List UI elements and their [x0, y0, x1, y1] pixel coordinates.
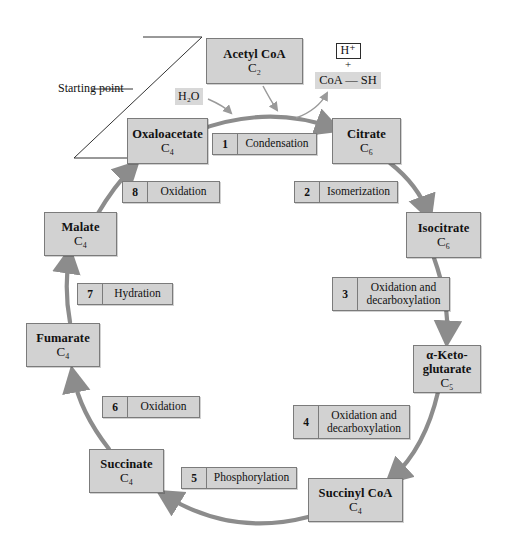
step-4-oxidation-decarboxylation[interactable]: 4 Oxidation and decarboxylation — [293, 405, 410, 439]
molecule-name: Oxaloacetate — [132, 127, 203, 141]
proton-label: H⁺ — [336, 43, 361, 59]
molecule-name: Isocitrate — [418, 221, 470, 235]
citric-acid-cycle-diagram: Starting point H₂O H⁺ + CoA — SH Acetyl … — [0, 0, 513, 551]
molecule-name: Malate — [61, 220, 99, 234]
molecule-fumarate[interactable]: Fumarate C₄ — [26, 323, 100, 367]
step-number: 3 — [333, 278, 358, 310]
molecule-name: Fumarate — [36, 331, 90, 345]
molecule-succinate[interactable]: Succinate C₄ — [89, 449, 164, 493]
arrow-oxaloacetate-to-citrate — [196, 117, 333, 131]
molecule-carbons: C₆ — [360, 141, 373, 156]
water-label: H₂O — [175, 88, 203, 105]
step-1-condensation[interactable]: 1 Condensation — [212, 133, 317, 155]
molecule-name: Succinate — [100, 457, 152, 471]
step-label: Oxidation — [148, 182, 219, 202]
molecule-carbons: C₂ — [248, 61, 261, 76]
molecule-oxaloacetate[interactable]: Oxaloacetate C₄ — [127, 118, 208, 164]
molecule-acetyl-coa[interactable]: Acetyl CoA C₂ — [206, 38, 303, 84]
step-label: Oxidation — [128, 397, 199, 417]
step-number: 7 — [78, 284, 103, 304]
step-number: 4 — [294, 406, 319, 438]
arrow-succinylcoa-to-succinate — [164, 495, 308, 523]
molecule-carbons: C₄ — [349, 500, 362, 515]
coash-label: CoA — SH — [315, 72, 381, 89]
step-8-oxidation[interactable]: 8 Oxidation — [122, 181, 220, 203]
molecule-name-line2: glutarate — [423, 362, 472, 376]
plus-symbol: + — [300, 59, 396, 70]
step-3-oxidation-decarboxylation[interactable]: 3 Oxidation and decarboxylation — [332, 277, 450, 311]
step-2-isomerization[interactable]: 2 Isomerization — [294, 181, 398, 203]
molecule-name: Citrate — [347, 127, 386, 141]
products-group: H⁺ + CoA — SH — [300, 40, 396, 89]
molecule-citrate[interactable]: Citrate C₆ — [332, 118, 401, 164]
step-label: Isomerization — [320, 182, 397, 202]
step-number: 5 — [182, 468, 207, 488]
molecule-isocitrate[interactable]: Isocitrate C₆ — [406, 212, 481, 258]
arrow-coash-out — [296, 93, 327, 118]
molecule-carbons: C₄ — [120, 471, 133, 486]
step-number: 8 — [123, 182, 148, 202]
molecule-succinyl-coa[interactable]: Succinyl CoA C₄ — [308, 478, 403, 522]
molecule-alpha-ketoglutarate[interactable]: α-Keto- glutarate C₅ — [413, 345, 481, 393]
step-number: 1 — [213, 134, 238, 154]
arrow-fumarate-to-malate — [67, 256, 70, 322]
molecule-carbons: C₄ — [74, 234, 87, 249]
molecule-carbons: C₆ — [437, 235, 450, 250]
step-label: Condensation — [238, 134, 316, 154]
step-5-phosphorylation[interactable]: 5 Phosphorylation — [181, 467, 297, 489]
molecule-carbons: C₄ — [161, 141, 174, 156]
step-7-hydration[interactable]: 7 Hydration — [77, 283, 173, 305]
molecule-name: Succinyl CoA — [319, 486, 393, 500]
step-label: Phosphorylation — [207, 468, 296, 488]
molecule-name: Acetyl CoA — [223, 47, 285, 61]
molecule-name: α-Keto- — [426, 348, 468, 362]
step-label: Oxidation and decarboxylation — [358, 278, 449, 310]
step-label: Hydration — [103, 284, 172, 304]
step-label: Oxidation and decarboxylation — [319, 406, 409, 438]
arrow-water-in — [208, 99, 231, 113]
arrow-acetylcoa-in — [263, 86, 277, 110]
step-6-oxidation[interactable]: 6 Oxidation — [102, 396, 200, 418]
step-number: 2 — [295, 182, 320, 202]
molecule-carbons: C₄ — [56, 345, 69, 360]
molecule-malate[interactable]: Malate C₄ — [44, 212, 117, 256]
molecule-carbons: C₅ — [440, 376, 453, 391]
step-number: 6 — [103, 397, 128, 417]
starting-point-label: Starting point — [58, 81, 124, 96]
